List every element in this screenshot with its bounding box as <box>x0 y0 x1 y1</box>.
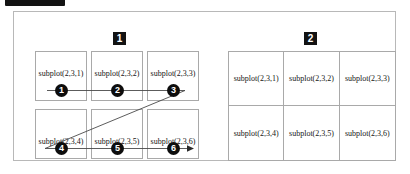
subplot-cell-2[interactable]: subplot(2,3,2) <box>284 52 339 106</box>
caption-badge <box>5 0 65 6</box>
panel-contiguous-subplots: subplot(2,3,1) subplot(2,3,2) subplot(2,… <box>228 51 396 161</box>
subplot-cell-label: subplot(2,3,2) <box>92 69 142 78</box>
caption-strip <box>0 0 410 9</box>
step-marker-5: 5 <box>111 142 124 155</box>
subplot-cell-label: subplot(2,3,4) <box>234 129 279 138</box>
panel-badge-1: 1 <box>113 32 126 45</box>
step-marker-3: 3 <box>167 84 180 97</box>
subplot-cell-label: subplot(2,3,1) <box>36 69 86 78</box>
subplot-cell-1[interactable]: subplot(2,3,1) <box>229 52 284 106</box>
subplot-cell-label: subplot(2,3,5) <box>289 129 334 138</box>
step-marker-2: 2 <box>111 84 124 97</box>
figure-frame: 1 2 subplot(2,3,1) subplot(2,3,2) subplo… <box>13 11 396 161</box>
subplot-cell-5[interactable]: subplot(2,3,5) <box>284 106 339 160</box>
subplot-cell-3[interactable]: subplot(2,3,3) <box>340 52 395 106</box>
step-marker-6: 6 <box>167 142 180 155</box>
subplot-cell-label: subplot(2,3,3) <box>345 74 390 83</box>
panel-badge-2: 2 <box>304 32 317 45</box>
subplot-cell-label: subplot(2,3,6) <box>345 129 390 138</box>
subplot-cell-label: subplot(2,3,1) <box>234 74 279 83</box>
subplot-cell-4[interactable]: subplot(2,3,4) <box>229 106 284 160</box>
subplot-cell-label: subplot(2,3,3) <box>148 69 198 78</box>
panel-separated-subplots: subplot(2,3,1) subplot(2,3,2) subplot(2,… <box>35 51 198 161</box>
subplot-cell-label: subplot(2,3,2) <box>289 74 334 83</box>
step-marker-1: 1 <box>55 84 68 97</box>
subplot-cell-6[interactable]: subplot(2,3,6) <box>340 106 395 160</box>
step-marker-4: 4 <box>55 142 68 155</box>
